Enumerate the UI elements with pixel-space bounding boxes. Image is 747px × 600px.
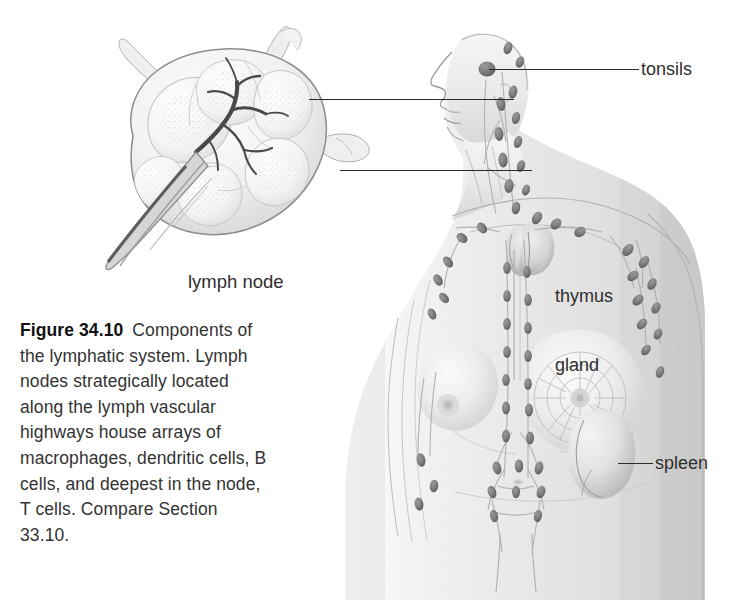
label-tonsils: tonsils (641, 58, 692, 81)
label-thymus-gland: thymus gland (555, 239, 613, 423)
body-illustration (340, 0, 720, 600)
figure-caption: Figure 34.10Components of the lymphatic … (20, 318, 270, 548)
figure-canvas: tonsils spleen thymus gland lymph node F… (0, 0, 747, 600)
label-spleen: spleen (655, 452, 708, 475)
spleen-organ (568, 410, 635, 499)
leader-line-tonsils (489, 69, 639, 70)
label-lymph-node: lymph node (188, 270, 284, 293)
figure-caption-text: Components of the lymphatic system. Lymp… (20, 320, 266, 545)
leader-line-lymph-node-upper (309, 99, 514, 100)
label-thymus-gland-line1: thymus (555, 285, 613, 308)
leader-line-spleen (618, 463, 653, 464)
figure-number: Figure 34.10 (20, 320, 123, 340)
label-thymus-gland-line2: gland (555, 354, 613, 377)
lymph-node-inset (106, 27, 369, 270)
leader-line-lymph-node-lower (340, 170, 532, 171)
